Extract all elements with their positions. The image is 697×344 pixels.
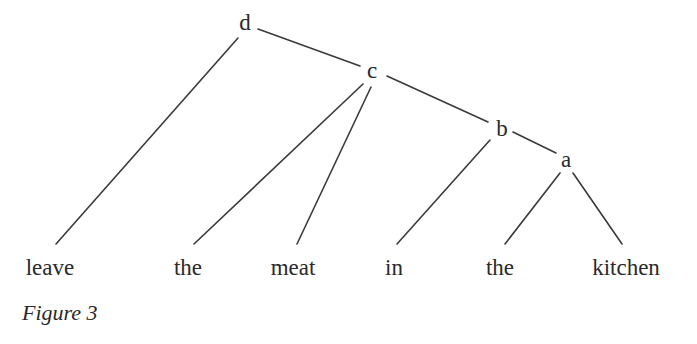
leaf-meat: meat	[271, 255, 316, 280]
leaf-kitchen: kitchen	[592, 255, 660, 280]
node-b: b	[496, 116, 508, 141]
leaf-the-2: the	[486, 255, 514, 280]
edge-c-to-the	[194, 84, 363, 244]
tree-edges	[56, 29, 622, 244]
edge-c-to-b	[387, 76, 488, 122]
tree-leaves: leavethemeatinthekitchen	[26, 255, 661, 280]
leaf-leave: leave	[26, 255, 75, 280]
figure-caption: Figure 3	[22, 300, 98, 326]
edge-d-to-c	[258, 29, 360, 66]
edge-a-to-the	[505, 173, 560, 244]
node-a: a	[561, 147, 571, 172]
leaf-the-1: the	[174, 255, 202, 280]
node-c: c	[367, 58, 377, 83]
node-d: d	[239, 10, 251, 35]
tree-nodes: dcba	[239, 10, 571, 172]
leaf-in: in	[385, 255, 403, 280]
edge-d-to-leave	[56, 38, 238, 244]
syntax-tree-diagram: dcba leavethemeatinthekitchen	[0, 0, 697, 344]
edge-b-to-in	[397, 140, 490, 244]
edge-b-to-a	[513, 132, 556, 153]
edge-a-to-kitchen	[573, 173, 622, 244]
